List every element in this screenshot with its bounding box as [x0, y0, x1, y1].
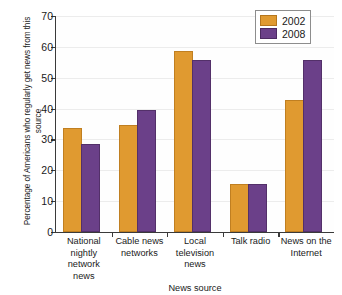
bar-chart: Percentage of Americans who regularly ge…	[0, 0, 342, 295]
bar-2008	[81, 144, 100, 232]
y-tick-label: 30	[41, 133, 53, 145]
plot-area: 010203040506070	[56, 16, 334, 232]
legend-swatch-2008	[260, 28, 277, 39]
bar-group	[112, 16, 168, 232]
legend-label-2002: 2002	[282, 15, 305, 27]
y-tick-label: 0	[47, 226, 53, 238]
bar-2002	[285, 100, 304, 232]
legend-swatch-2002	[260, 15, 277, 26]
bar-2002	[63, 128, 82, 232]
y-tick-label: 50	[41, 72, 53, 84]
y-axis-line	[55, 16, 56, 233]
bar-group	[278, 16, 334, 232]
bar-2008	[137, 110, 156, 232]
bar-group	[167, 16, 223, 232]
bar-2002	[119, 125, 138, 232]
bar-group	[56, 16, 112, 232]
x-category-label: Local television news	[167, 236, 223, 271]
x-category-label: Cable news networks	[112, 236, 168, 259]
x-axis-line	[55, 232, 334, 233]
x-category-label: News on the Internet	[278, 236, 334, 259]
x-category-label: National nightly network news	[56, 236, 112, 282]
legend-item: 2008	[260, 27, 305, 40]
legend-label-2008: 2008	[282, 28, 305, 40]
y-axis-label: Percentage of Americans who regularly ge…	[22, 10, 43, 232]
legend-item: 2002	[260, 14, 305, 27]
y-tick-label: 10	[41, 195, 53, 207]
bar-2008	[303, 60, 322, 232]
bar-2002	[174, 51, 193, 232]
bar-2008	[248, 184, 267, 232]
x-category-label: Talk radio	[223, 236, 279, 248]
bar-2002	[230, 184, 249, 232]
y-tick-label: 70	[41, 10, 53, 22]
bar-2008	[192, 60, 211, 232]
y-tick-label: 20	[41, 164, 53, 176]
legend: 2002 2008	[255, 10, 311, 44]
y-axis-label-container: Percentage of Americans who regularly ge…	[0, 0, 34, 240]
y-tick-label: 40	[41, 103, 53, 115]
x-axis-label: News source	[56, 283, 334, 293]
y-tick-label: 60	[41, 41, 53, 53]
bar-group	[223, 16, 279, 232]
